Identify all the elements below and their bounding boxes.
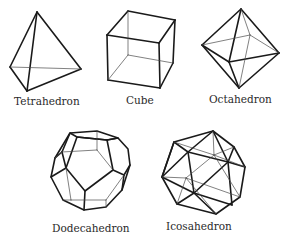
tetrahedron-drawing — [10, 12, 81, 91]
platonic-solids-figure: Tetrahedron Cube Octahedron Dodecahedron… — [0, 0, 289, 240]
icosahedron-drawing — [162, 131, 245, 214]
octahedron-label: Octahedron — [209, 94, 272, 105]
icosahedron-label: Icosahedron — [166, 221, 232, 232]
dodecahedron-drawing — [51, 131, 130, 210]
octahedron-drawing — [202, 9, 279, 88]
dodecahedron-label: Dodecahedron — [52, 223, 130, 234]
cube-label: Cube — [126, 95, 154, 106]
cube-drawing — [107, 11, 175, 88]
tetrahedron-label: Tetrahedron — [14, 96, 80, 107]
